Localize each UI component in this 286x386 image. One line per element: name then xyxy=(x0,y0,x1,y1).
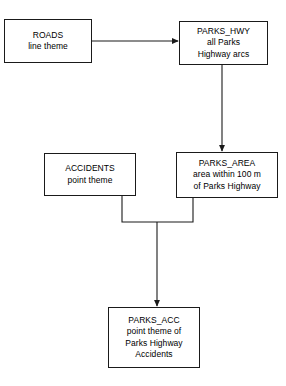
diagram-canvas: ROADS line theme PARKS_HWY all Parks Hig… xyxy=(0,0,286,386)
node-parks-acc-line-3: Parks Highway xyxy=(125,338,182,350)
node-roads-line-1: ROADS xyxy=(33,30,63,42)
node-parks-hwy-line-3: Highway arcs xyxy=(198,49,250,61)
node-roads[interactable]: ROADS line theme xyxy=(4,19,92,63)
connector-accidents-to-junction xyxy=(122,196,157,222)
connector-parks-area-to-junction xyxy=(157,198,193,222)
node-parks-hwy-line-2: all Parks xyxy=(207,37,240,49)
node-accidents-line-1: ACCIDENTS xyxy=(65,163,115,175)
node-parks-area-line-3: of Parks Highway xyxy=(194,181,261,193)
node-parks-acc[interactable]: PARKS_ACC point theme of Parks Highway A… xyxy=(108,307,200,368)
node-parks-acc-line-2: point theme of xyxy=(127,326,182,338)
node-parks-hwy-line-1: PARKS_HWY xyxy=(197,26,250,38)
node-accidents-line-2: point theme xyxy=(68,175,113,187)
node-accidents[interactable]: ACCIDENTS point theme xyxy=(44,153,136,196)
node-parks-acc-line-1: PARKS_ACC xyxy=(128,315,179,327)
node-parks-acc-line-4: Accidents xyxy=(135,349,172,361)
node-parks-hwy[interactable]: PARKS_HWY all Parks Highway arcs xyxy=(179,21,268,65)
node-parks-area-line-1: PARKS_AREA xyxy=(199,158,256,170)
node-parks-area-line-2: area within 100 m xyxy=(193,169,261,181)
node-parks-area[interactable]: PARKS_AREA area within 100 m of Parks Hi… xyxy=(176,152,278,198)
node-roads-line-2: line theme xyxy=(28,41,68,53)
